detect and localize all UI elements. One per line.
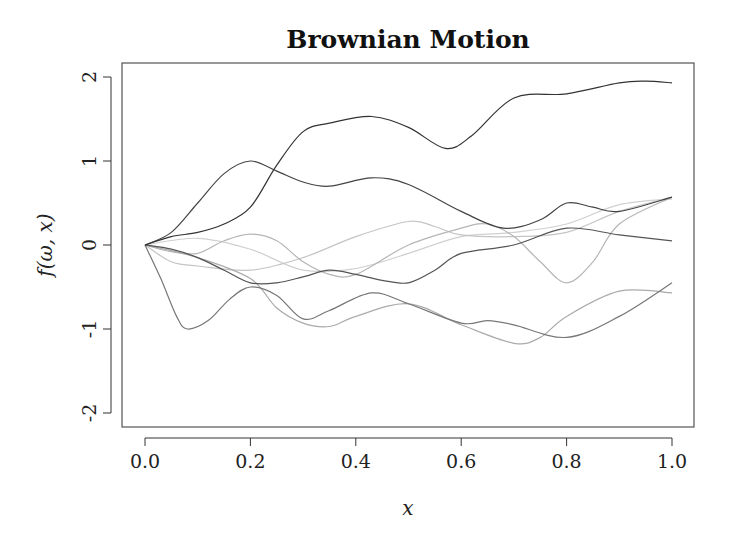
series-line-path-4 [145,245,672,338]
y-axis-label: f(ω, x) [33,213,57,278]
chart-title: Brownian Motion [286,25,530,54]
x-axis: 0.00.20.40.60.81.0 [130,438,687,472]
x-tick-label: 0.8 [551,450,581,472]
y-tick-label: 0 [78,239,100,251]
series-line-path-5 [145,245,672,344]
series-line-path-7 [145,197,672,270]
series-line-path-1 [145,81,672,245]
y-tick-label: -2 [78,404,100,423]
series-line-path-3 [145,228,672,284]
x-tick-label: 0.4 [341,450,371,472]
series-line-path-8 [145,199,672,272]
series-lines [145,81,672,344]
x-tick-label: 1.0 [657,450,687,472]
x-tick-label: 0.6 [446,450,476,472]
x-axis-label: x [402,496,413,520]
y-tick-label: -1 [78,320,100,339]
brownian-motion-chart: Brownian Motion 0.00.20.40.60.81.0 -2-10… [0,0,730,538]
y-tick-label: 1 [78,155,100,167]
x-tick-label: 0.2 [235,450,265,472]
series-line-path-2 [145,161,672,245]
y-axis: -2-1012 [78,71,111,422]
y-tick-label: 2 [78,71,100,83]
x-tick-label: 0.0 [130,450,160,472]
